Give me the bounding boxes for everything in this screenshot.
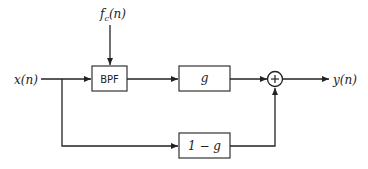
control-label: fc(n) — [99, 7, 126, 23]
block-diagram: x(n) fc(n) BPF g 1 − g y(n) — [0, 0, 368, 169]
output-label: y(n) — [332, 73, 357, 87]
complement-gain-label: 1 − g — [188, 139, 221, 153]
input-label: x(n) — [14, 73, 38, 87]
bpf-label: BPF — [100, 74, 119, 85]
complement-to-sum-arrow — [230, 88, 275, 146]
gain-label: g — [201, 71, 209, 85]
